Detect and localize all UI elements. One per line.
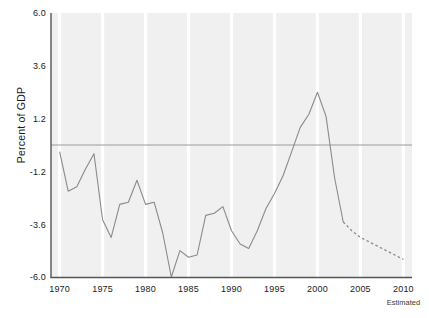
x-tick-label: 2005 bbox=[350, 284, 371, 294]
estimated-footnote: Estimated bbox=[387, 298, 420, 307]
y-tick-label: 6.0 bbox=[2, 8, 46, 18]
x-tick-label: 1980 bbox=[135, 284, 156, 294]
y-tick-label: 1.2 bbox=[2, 114, 46, 124]
y-tick-label: -1.2 bbox=[2, 167, 46, 177]
plot-area bbox=[0, 0, 429, 318]
x-tick-label: 1995 bbox=[264, 284, 285, 294]
x-tick-label: 1985 bbox=[178, 284, 199, 294]
x-tick-label: 2000 bbox=[307, 284, 328, 294]
x-tick-label: 2010 bbox=[393, 284, 414, 294]
chart-container: Percent of GDP 6.0 3.6 1.2 -1.2 -3.6 -6.… bbox=[0, 0, 429, 318]
y-tick-label: -6.0 bbox=[2, 272, 46, 282]
x-tick-label: 1970 bbox=[49, 284, 70, 294]
x-tick-label: 1990 bbox=[221, 284, 242, 294]
x-tick-label: 1975 bbox=[92, 284, 113, 294]
y-axis-ticks: 6.0 3.6 1.2 -1.2 -3.6 -6.0 bbox=[0, 0, 46, 318]
y-tick-label: 3.6 bbox=[2, 61, 46, 71]
y-tick-label: -3.6 bbox=[2, 220, 46, 230]
